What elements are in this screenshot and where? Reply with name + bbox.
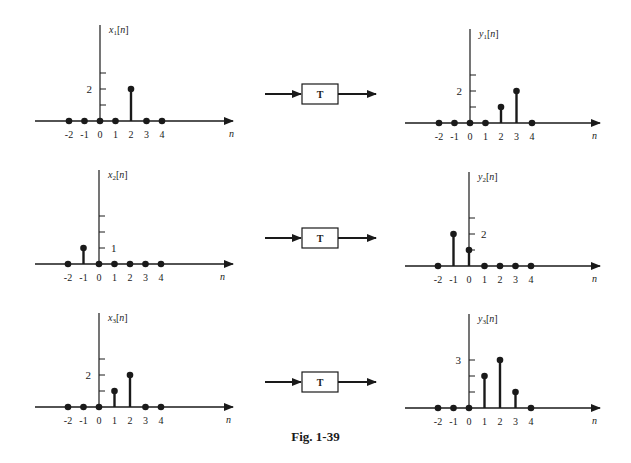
n-tick-label: -2 — [64, 415, 72, 426]
figure-caption: Fig. 1-39 — [0, 429, 631, 445]
y-tick-label: 3 — [456, 354, 462, 366]
n-tick-label: -1 — [79, 415, 87, 426]
stem-marker — [529, 120, 536, 127]
n-tick-label: 3 — [143, 415, 148, 426]
y-tick-label: 2 — [481, 228, 487, 240]
stem-marker — [481, 263, 488, 270]
stem-marker — [80, 245, 87, 252]
n-tick-label: -1 — [80, 129, 88, 140]
stem-marker — [497, 263, 504, 270]
n-tick-label: 2 — [129, 129, 134, 140]
n-tick-label: 0 — [467, 416, 472, 427]
stem-marker — [142, 404, 149, 411]
stem-marker — [142, 261, 149, 268]
stem-marker — [450, 231, 457, 238]
stem-marker — [143, 118, 150, 125]
stem-marker — [158, 404, 165, 411]
stem-plot-x3: 2x3[n]n-2-101234 — [35, 312, 233, 426]
stem-marker — [111, 261, 118, 268]
n-axis-label: n — [220, 271, 225, 282]
n-tick-label: 2 — [498, 416, 503, 427]
n-tick-label: -2 — [434, 274, 442, 285]
n-tick-label: 0 — [467, 274, 472, 285]
n-tick-label: 2 — [499, 131, 504, 142]
n-tick-label: -1 — [449, 416, 457, 427]
n-tick-label: -2 — [64, 272, 72, 283]
stem-marker — [435, 263, 442, 270]
n-tick-label: -1 — [450, 131, 458, 142]
n-tick-label: -2 — [434, 416, 442, 427]
n-tick-label: 4 — [159, 272, 164, 283]
stem-marker — [127, 261, 134, 268]
n-tick-label: 4 — [529, 274, 534, 285]
system-label: T — [317, 89, 324, 100]
stem-marker — [512, 389, 519, 396]
stem-marker — [65, 261, 72, 268]
n-axis-label: n — [592, 273, 597, 284]
stem-marker — [512, 263, 519, 270]
stem-marker — [467, 120, 474, 127]
n-axis-label: n — [226, 414, 231, 425]
stem-marker — [497, 357, 504, 364]
stem-marker — [159, 118, 166, 125]
signal-label: y2[n] — [477, 171, 498, 184]
n-axis-label: n — [592, 130, 597, 141]
stem-marker — [513, 88, 520, 95]
y-tick-label: 1 — [111, 242, 117, 254]
n-tick-label: 0 — [97, 272, 102, 283]
stem-marker — [436, 120, 443, 127]
n-tick-label: 2 — [498, 274, 503, 285]
stem-plot-y1: 2y1[n]n-2-101234 — [405, 28, 600, 142]
n-tick-label: 3 — [513, 416, 518, 427]
n-tick-label: 1 — [113, 129, 118, 140]
n-tick-label: 1 — [482, 416, 487, 427]
stem-plot-y2: 2y2[n]n-2-101234 — [405, 171, 600, 285]
stem-marker — [81, 118, 88, 125]
n-tick-label: 3 — [513, 274, 518, 285]
n-tick-label: 3 — [144, 129, 149, 140]
stem-marker — [127, 372, 134, 379]
n-axis-label: n — [592, 415, 597, 426]
system-label: T — [317, 233, 324, 244]
system-label: T — [317, 377, 324, 388]
stem-marker — [528, 405, 535, 412]
stem-plot-x2: 1x2[n]n-2-101234 — [35, 169, 233, 283]
stem-plot-y3: 3y3[n]n-2-101234 — [405, 313, 600, 427]
y-tick-label: 2 — [87, 83, 93, 95]
n-tick-label: -1 — [449, 274, 457, 285]
n-tick-label: 4 — [159, 415, 164, 426]
stem-marker — [482, 120, 489, 127]
stem-marker — [65, 404, 72, 411]
n-tick-label: 0 — [97, 415, 102, 426]
n-tick-label: -2 — [435, 131, 443, 142]
n-tick-label: -1 — [79, 272, 87, 283]
stem-marker — [96, 404, 103, 411]
n-axis-label: n — [229, 128, 234, 139]
signal-label: y3[n] — [477, 313, 498, 326]
stem-marker — [466, 405, 473, 412]
stem-plot-x1: 2x1[n]n-2-101234 — [35, 24, 234, 140]
system-block-2: T — [265, 228, 376, 248]
n-tick-label: 3 — [514, 131, 519, 142]
stem-marker — [466, 247, 473, 254]
stem-marker — [158, 261, 165, 268]
stem-marker — [111, 388, 118, 395]
n-tick-label: -2 — [65, 129, 73, 140]
system-block-1: T — [265, 84, 376, 104]
signal-label: x2[n] — [107, 169, 128, 182]
n-tick-label: 3 — [143, 272, 148, 283]
n-tick-label: 2 — [128, 272, 133, 283]
signal-diagram: 2x1[n]n-2-1012342y1[n]n-2-1012341x2[n]n-… — [0, 0, 631, 463]
y-tick-label: 2 — [457, 85, 463, 97]
signal-label: x3[n] — [107, 312, 128, 325]
n-tick-label: 1 — [112, 272, 117, 283]
n-tick-label: 0 — [98, 129, 103, 140]
signal-label: x1[n] — [108, 24, 129, 37]
n-tick-label: 0 — [468, 131, 473, 142]
n-tick-label: 4 — [160, 129, 165, 140]
stem-marker — [96, 261, 103, 268]
signal-label: y1[n] — [478, 28, 499, 41]
n-tick-label: 1 — [482, 274, 487, 285]
stem-marker — [128, 86, 135, 93]
system-block-3: T — [265, 372, 376, 392]
